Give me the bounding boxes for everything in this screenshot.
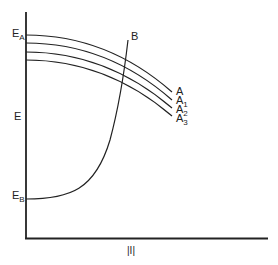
- y-axis-label: E: [14, 111, 21, 122]
- label-curve-b: B: [131, 31, 138, 42]
- x-axis-label-text: |I|: [127, 245, 135, 256]
- label-e-a: EA: [12, 28, 25, 39]
- label-e-b: EB: [12, 190, 25, 201]
- y-axis-label-text: E: [14, 110, 21, 122]
- x-axis-label: |I|: [127, 246, 135, 256]
- diagram-canvas: [0, 0, 278, 265]
- label-curve-a3-sub: 3: [183, 118, 187, 127]
- label-curve-b-text: B: [131, 30, 138, 42]
- label-e-a-sub: A: [19, 33, 24, 42]
- label-curve-a3: A3: [176, 113, 188, 124]
- curve-a3: [26, 60, 172, 116]
- label-e-b-sub: B: [19, 195, 24, 204]
- curve-b: [26, 40, 128, 199]
